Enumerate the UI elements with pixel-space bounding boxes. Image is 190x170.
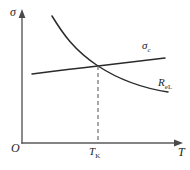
origin-label: O xyxy=(11,142,20,154)
r-el-symbol-text: R xyxy=(158,76,165,88)
y-axis-label-text: σ xyxy=(10,5,16,19)
y-axis-label: σ xyxy=(10,6,16,18)
x-axis-label-text: T xyxy=(178,145,185,159)
tk-subscript-text: K xyxy=(95,152,100,159)
r-el-subscript-text: eL xyxy=(165,83,173,90)
figure-container: σ T O TK σc ReL xyxy=(0,0,190,170)
sigma-c-curve-label: σc xyxy=(142,40,151,54)
r-el-curve xyxy=(52,16,168,92)
x-axis-label: T xyxy=(178,146,185,158)
origin-label-text: O xyxy=(11,141,20,155)
transition-temperature-label: TK xyxy=(89,146,100,160)
y-axis-arrowhead xyxy=(19,9,26,18)
sigma-c-subscript-text: c xyxy=(147,46,150,53)
r-el-curve-label: ReL xyxy=(158,77,172,91)
